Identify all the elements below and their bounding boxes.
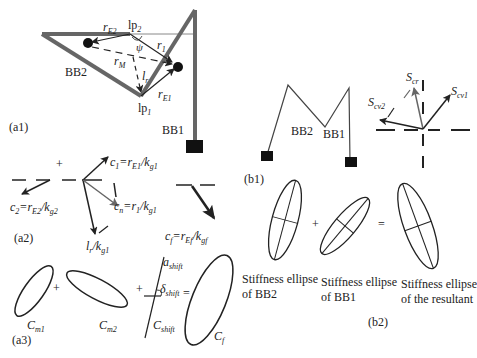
panel-b2-drawing: [262, 177, 447, 273]
label-bb2-b1: BB2: [291, 125, 313, 137]
formula-cf: cf=rEf/kgf: [165, 230, 207, 245]
caption-resultant-line2: of the resultant: [401, 293, 473, 305]
label-psi: ψ: [136, 42, 143, 53]
label-bb1-b1: BB1: [323, 128, 345, 140]
formula-cn: cn=r1/kg1: [114, 200, 157, 215]
label-lp1: lp1: [138, 102, 151, 117]
panel-label-a1: (a1): [9, 121, 28, 133]
equals-sign-b2: =: [378, 218, 385, 230]
plus-sign-a3-1: +: [53, 282, 60, 294]
label-c-shift: Cshift: [153, 319, 175, 334]
formula-c2: c2=rE2/kg2: [10, 201, 58, 216]
caption-bb1-line1: Stiffness ellipse: [321, 276, 397, 288]
label-r-e2: rE2: [103, 21, 117, 36]
label-lp2: lp2: [128, 19, 141, 34]
panel-label-a2: (a2): [14, 232, 33, 244]
equals-sign-a3: =: [183, 287, 190, 299]
label-s-cv2: Scv2: [368, 96, 385, 111]
label-r-m: rM: [114, 55, 125, 70]
formula-lr: lr/kg1: [86, 240, 109, 255]
label-s-cv1: Scv1: [451, 85, 468, 100]
label-l-r: lr: [142, 70, 148, 85]
plus-sign-a2: +: [56, 158, 63, 170]
caption-resultant-line1: Stiffness ellipse: [401, 278, 477, 290]
label-s-cr: Scr: [406, 71, 419, 86]
plus-sign-a3-2: +: [136, 283, 143, 295]
label-a-shift: ashift: [163, 256, 183, 271]
plus-sign-b2: +: [312, 218, 319, 230]
label-bb2: BB2: [65, 66, 87, 78]
panel-a3-drawing: [9, 249, 243, 351]
label-cm1: Cm1: [27, 319, 45, 334]
panel-label-b1: (b1): [244, 173, 264, 185]
label-r1: r1: [157, 39, 166, 54]
caption-bb2-line1: Stiffness ellipse: [242, 273, 318, 285]
label-bb1: BB1: [162, 124, 184, 136]
label-r-e1: rE1: [158, 88, 172, 103]
caption-bb2-line2: of BB2: [242, 288, 277, 300]
formula-c1: c1=rE1/kg1: [110, 156, 158, 171]
label-cf: Cf: [214, 330, 224, 345]
panel-label-a3: (a3): [12, 334, 31, 346]
label-cm2: Cm2: [99, 319, 117, 334]
panel-label-b2: (b2): [368, 316, 388, 328]
caption-bb1-line2: of BB1: [321, 291, 356, 303]
label-delta-shift: δshift: [160, 283, 179, 298]
